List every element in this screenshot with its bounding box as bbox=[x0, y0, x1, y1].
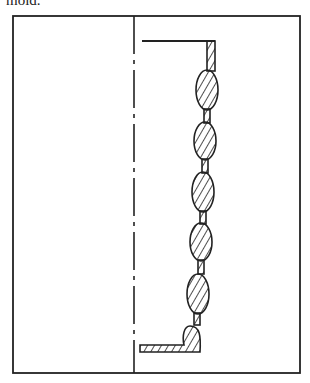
frame-border bbox=[13, 16, 300, 373]
bellows-profile bbox=[140, 41, 218, 352]
mold-diagram bbox=[0, 0, 310, 383]
